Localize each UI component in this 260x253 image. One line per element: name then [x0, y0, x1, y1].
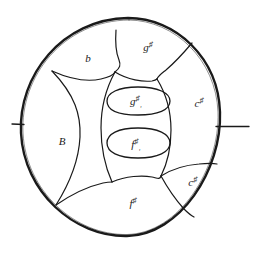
tonefield-label-ding: B: [59, 135, 66, 147]
tonefield-label-fsharp1-subscript: ₁: [138, 144, 140, 152]
handpan-diagram: B b g♯ c♯ c♯₁ f♯ g♯₁ f♯₁: [0, 0, 260, 253]
tonefield-label-csharp1-subscript: ₁: [197, 182, 199, 190]
tonefield-label-gsharp1-subscript: ₁: [140, 101, 142, 109]
tonefield-label-b-base: b: [85, 52, 91, 64]
diagram-canvas: B b g♯ c♯ c♯₁ f♯ g♯₁ f♯₁: [0, 0, 260, 253]
tonefield-label-ding-base: B: [59, 135, 66, 147]
tonefield-label-b: b: [85, 52, 91, 64]
left-edge-tick: [12, 124, 24, 125]
